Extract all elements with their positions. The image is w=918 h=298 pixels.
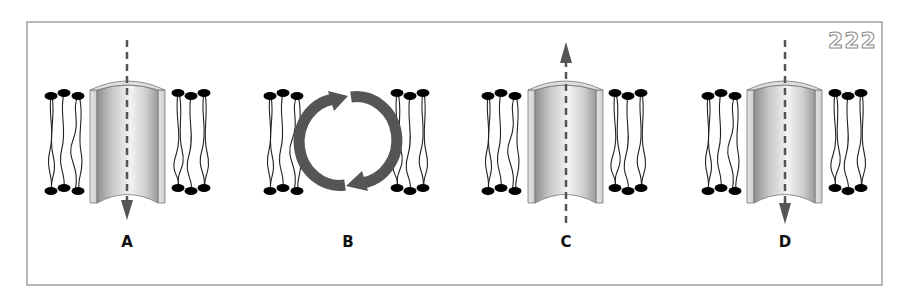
page-number: 222	[828, 28, 877, 53]
panel-label-b: B	[342, 233, 353, 251]
membrane-transport-figure: 222 A B C	[0, 0, 918, 298]
panel-label-d: D	[779, 233, 791, 251]
panel-label-c: C	[560, 233, 571, 251]
panel-label-a: A	[121, 233, 133, 251]
